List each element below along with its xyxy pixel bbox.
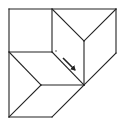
diagram-lines [9,9,116,117]
top-crease-left [52,9,84,41]
left-crease-lower [9,85,41,117]
left-crease-upper [9,52,41,85]
center-diagonal [52,52,84,85]
outer-bottom-diagonal [52,85,84,117]
fold-direction-arrow [63,58,75,70]
outer-right-diagonal [84,53,116,85]
top-crease-right [84,9,116,41]
fold-diagram [0,0,123,124]
reference-dot [55,50,56,51]
